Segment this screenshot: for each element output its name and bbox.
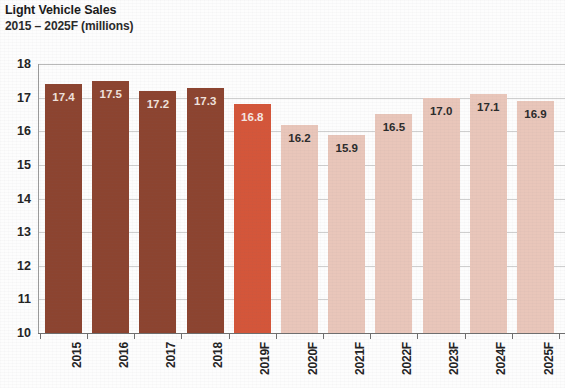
x-axis-tick bbox=[229, 333, 230, 339]
x-axis-tick-label: 2022F bbox=[400, 342, 414, 375]
bar-value-label: 17.3 bbox=[187, 95, 224, 107]
bar: 17.4 bbox=[45, 84, 82, 333]
x-axis-tick bbox=[134, 333, 135, 339]
chart-screenshot: Light Vehicle Sales 2015 – 2025F (millio… bbox=[0, 0, 565, 388]
x-axis-tick bbox=[181, 333, 182, 339]
bar: 17.1 bbox=[470, 94, 507, 333]
x-axis-tick-label: 2023F bbox=[447, 342, 461, 375]
x-axis-tick bbox=[465, 333, 466, 339]
y-axis-tick-label: 18 bbox=[3, 57, 31, 71]
chart-title: Light Vehicle Sales bbox=[5, 3, 116, 17]
x-axis-tick-label: 2015 bbox=[70, 342, 84, 368]
bar-value-label: 17.2 bbox=[139, 98, 176, 110]
y-axis-tick-label: 17 bbox=[3, 91, 31, 105]
chart-subtitle: 2015 – 2025F (millions) bbox=[5, 19, 133, 33]
x-axis-tick bbox=[40, 333, 41, 339]
x-axis-tick-label: 2024F bbox=[494, 342, 508, 375]
y-axis-tick-label: 12 bbox=[3, 259, 31, 273]
bar-value-label: 17.1 bbox=[470, 101, 507, 113]
x-axis-tick bbox=[370, 333, 371, 339]
bar: 16.8 bbox=[234, 104, 271, 333]
bar-value-label: 17.5 bbox=[92, 88, 129, 100]
x-axis-tick-label: 2020F bbox=[306, 342, 320, 375]
y-axis-line bbox=[38, 64, 39, 334]
bar: 16.2 bbox=[281, 125, 318, 333]
y-axis-tick-label: 11 bbox=[3, 292, 31, 306]
bar: 15.9 bbox=[328, 135, 365, 333]
bar: 16.5 bbox=[375, 114, 412, 333]
bar-value-label: 16.5 bbox=[375, 121, 412, 133]
x-axis-tick-label: 2017 bbox=[164, 342, 178, 368]
bar: 17.0 bbox=[423, 98, 460, 333]
x-axis-tick bbox=[417, 333, 418, 339]
bar: 17.3 bbox=[187, 88, 224, 333]
x-axis-tick-label: 2025F bbox=[542, 342, 556, 375]
x-axis-tick-label: 2021F bbox=[353, 342, 367, 375]
x-axis-tick bbox=[323, 333, 324, 339]
x-axis-tick-label: 2016 bbox=[117, 342, 131, 368]
x-axis-tick bbox=[276, 333, 277, 339]
bar-value-label: 16.9 bbox=[517, 108, 554, 120]
bar: 17.5 bbox=[92, 81, 129, 333]
y-axis-tick-label: 10 bbox=[3, 326, 31, 340]
gridline bbox=[38, 64, 565, 65]
bar: 17.2 bbox=[139, 91, 176, 333]
bar-value-label: 16.8 bbox=[234, 111, 271, 123]
y-axis-tick-label: 15 bbox=[3, 158, 31, 172]
y-axis-tick-label: 16 bbox=[3, 124, 31, 138]
x-axis-tick-label: 2018 bbox=[211, 342, 225, 368]
x-axis-tick bbox=[87, 333, 88, 339]
bar-value-label: 17.0 bbox=[423, 105, 460, 117]
x-axis-tick bbox=[512, 333, 513, 339]
y-axis-tick-label: 14 bbox=[3, 192, 31, 206]
bar-value-label: 17.4 bbox=[45, 91, 82, 103]
bar-value-label: 15.9 bbox=[328, 142, 365, 154]
x-axis-line bbox=[38, 333, 565, 334]
bar-value-label: 16.2 bbox=[281, 132, 318, 144]
x-axis-tick-label: 2019F bbox=[258, 342, 272, 375]
bar: 16.9 bbox=[517, 101, 554, 333]
y-axis-tick-label: 13 bbox=[3, 225, 31, 239]
x-axis-tick bbox=[559, 333, 560, 339]
plot-area: 17.417.517.217.316.816.215.916.517.017.1… bbox=[38, 64, 565, 333]
